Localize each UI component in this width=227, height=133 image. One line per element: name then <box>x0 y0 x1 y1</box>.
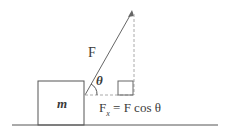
component-equation: Fx = F cos θ <box>99 101 161 118</box>
component-subscript: x <box>106 109 110 118</box>
right-angle-marker <box>118 81 133 95</box>
arrowhead-icon <box>128 10 134 17</box>
force-label: F <box>88 46 96 60</box>
angle-label: θ <box>96 74 103 87</box>
mass-label: m <box>57 97 67 110</box>
component-rhs: = F cos θ <box>113 100 161 115</box>
